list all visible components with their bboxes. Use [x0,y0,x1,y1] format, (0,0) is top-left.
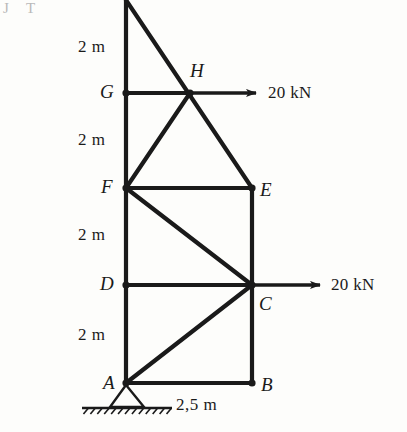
scan-smudge-left: J [3,0,9,17]
node-label-a: A [103,373,115,392]
node-label-b: B [261,375,273,394]
dim-G-to-F: 2 m [78,131,105,148]
load-at-H-label: 20 kN [268,84,312,101]
dim-span-A-B: 2,5 m [176,396,217,413]
node-label-c: C [259,294,272,313]
scan-smudge-right: T [26,0,35,17]
diagonal-A-C [126,285,252,383]
support-symbol [82,385,172,414]
joint-g [122,89,129,96]
joint-d [122,281,129,288]
diagonal-F-C [126,188,252,285]
node-label-d: D [100,274,114,293]
support-triangle [110,385,144,407]
joint-f [122,184,129,191]
dim-D-to-A: 2 m [78,326,105,343]
joint-b [248,379,255,386]
node-label-g: G [100,82,114,101]
truss-members [126,0,252,383]
dim-F-to-D: 2 m [78,226,105,243]
node-label-f: F [101,177,113,196]
joint-e [248,184,255,191]
truss-diagram: ABCDEFGH 2 m2 m2 m2 m2,5 m 20 kN20 kN JT [0,0,407,432]
node-label-h: H [190,61,204,80]
node-label-e: E [260,180,272,199]
diagonal-F-H [126,93,190,188]
load-at-C-label: 20 kN [331,276,375,293]
dim-top-to-G: 2 m [78,38,105,55]
